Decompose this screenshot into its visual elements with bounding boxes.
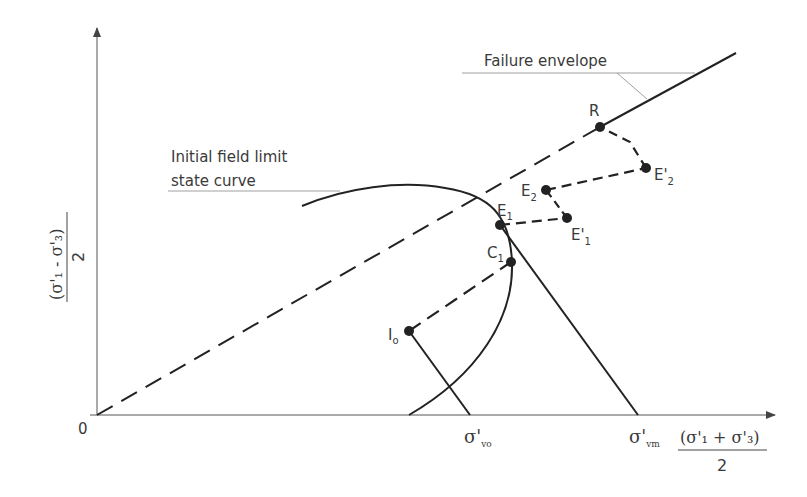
point-r [595, 122, 605, 132]
x-axis-title-numerator: (σ'₁ + σ'₃) [680, 428, 760, 447]
point-e1p [562, 213, 572, 223]
stress-path [409, 262, 511, 331]
label-e2p: E'2 [654, 166, 674, 187]
k0-line-e1 [500, 225, 638, 415]
point-e2 [541, 185, 551, 195]
stress-path-e2p-r [600, 127, 646, 168]
point-c1 [506, 257, 516, 267]
failure-envelope-label: Failure envelope [484, 52, 607, 70]
sigma-vo-label: σ'vo [464, 426, 492, 449]
failure-envelope-dashed [97, 127, 600, 415]
point-io [404, 326, 414, 336]
label-r: R [589, 102, 599, 120]
initial-curve-label-2: state curve [171, 172, 256, 190]
label-e2: E2 [521, 182, 537, 203]
label-e1: E1 [497, 202, 513, 222]
y-axis-title: (σ'₁ - σ'₃) 2 [47, 212, 88, 302]
y-axis-title-numerator: (σ'₁ - σ'₃) [47, 228, 66, 300]
failure-envelope-leader-diag [617, 73, 647, 99]
initial-limit-state-curve [302, 185, 512, 415]
label-c1: C1 [487, 244, 504, 264]
initial-curve-label-1: Initial field limit [171, 148, 288, 166]
k0-line-io [409, 331, 470, 415]
stress-path-e1p-e2 [546, 190, 567, 218]
stress-path-e2-e2p [546, 168, 646, 190]
stress-path-diagram: R E'2 E2 E1 E'1 C1 Io Failure envelope I… [0, 0, 807, 497]
failure-envelope-solid [600, 53, 736, 127]
sigma-vm-label: σ'vm [629, 426, 660, 449]
point-e2p [641, 163, 651, 173]
label-e1p: E'1 [571, 226, 591, 247]
y-axis-title-denominator: 2 [69, 252, 88, 262]
x-axis-title-denominator: 2 [717, 456, 727, 475]
point-e1 [495, 220, 505, 230]
origin-label: 0 [78, 420, 88, 438]
label-io: Io [388, 326, 399, 346]
